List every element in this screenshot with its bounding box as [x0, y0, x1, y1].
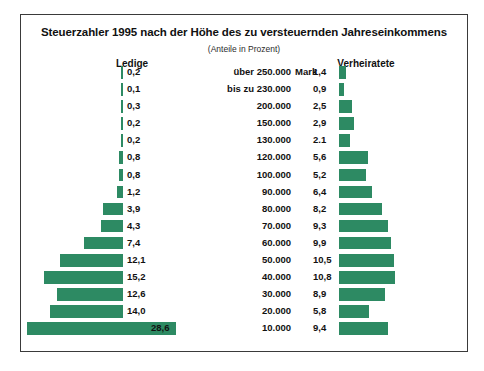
ledige-bar [121, 83, 123, 96]
ledige-value-label: 0,2 [127, 65, 140, 79]
verheiratete-bar-zone: 5,8 [339, 303, 467, 320]
chart-row: 12,630.0008,9 [21, 286, 467, 303]
verheiratete-bar [339, 134, 350, 147]
chart-row: 28,610.0009,4 [21, 320, 467, 337]
income-bracket-label: 100.000 [171, 168, 291, 182]
chart-row: 3,980.0008,2 [21, 201, 467, 218]
chart-row: 0,2130.0002.1 [21, 132, 467, 149]
verheiratete-value-label: 2.1 [313, 133, 326, 147]
verheiratete-bar [339, 203, 382, 216]
ledige-bar-zone: 4,3 [21, 218, 123, 235]
ledige-bar-zone: 28,6 [21, 320, 123, 337]
ledige-bar [57, 288, 123, 301]
ledige-bar [121, 134, 123, 147]
ledige-bar [103, 203, 123, 216]
verheiratete-bar [339, 322, 388, 335]
ledige-value-label: 3,9 [127, 202, 140, 216]
verheiratete-bar-zone: 2,5 [339, 98, 467, 115]
verheiratete-value-label: 1,4 [313, 65, 326, 79]
verheiratete-bar [339, 237, 391, 250]
ledige-value-label: 0,8 [127, 168, 140, 182]
income-bracket-label: 40.000 [171, 270, 291, 284]
ledige-value-label: 0,1 [127, 82, 140, 96]
ledige-bar-zone: 0,2 [21, 132, 123, 149]
ledige-bar [44, 271, 123, 284]
ledige-bar [101, 220, 123, 233]
chart-row: 0,8120.0005,6 [21, 149, 467, 166]
verheiratete-bar-zone: 0,9 [339, 81, 467, 98]
verheiratete-bar-zone: 8,2 [339, 201, 467, 218]
chart-row: 0,3200.0002,5 [21, 98, 467, 115]
chart-subtitle: (Anteile in Prozent) [21, 44, 467, 54]
ledige-bar-zone: 0,8 [21, 167, 123, 184]
verheiratete-value-label: 2,9 [313, 116, 326, 130]
verheiratete-bar-zone: 2.1 [339, 132, 467, 149]
income-bracket-label: 80.000 [171, 202, 291, 216]
ledige-bar [60, 254, 123, 267]
ledige-value-label: 0,8 [127, 150, 140, 164]
verheiratete-value-label: 9,3 [313, 219, 326, 233]
chart-row: 0,1bis zu 230.0000,9 [21, 81, 467, 98]
chart-row: 4,370.0009,3 [21, 218, 467, 235]
verheiratete-bar-zone: 1,4 [339, 64, 467, 81]
ledige-bar-zone: 0,3 [21, 98, 123, 115]
income-bracket-label: 90.000 [171, 185, 291, 199]
chart-row: 7,460.0009,9 [21, 235, 467, 252]
verheiratete-bar [339, 305, 369, 318]
income-bracket-label: 150.000 [171, 116, 291, 130]
chart-rows: 0,2über 250.000Mark1,40,1bis zu 230.0000… [21, 64, 467, 338]
chart-row: 1,290.0006,4 [21, 184, 467, 201]
ledige-value-label: 28,6 [151, 321, 170, 335]
ledige-bar [50, 305, 123, 318]
ledige-bar-zone: 12,6 [21, 286, 123, 303]
verheiratete-bar [339, 83, 344, 96]
ledige-bar-zone: 0,1 [21, 81, 123, 98]
chart-row: 12,150.00010,5 [21, 252, 467, 269]
income-bracket-label: 50.000 [171, 253, 291, 267]
verheiratete-bar [339, 117, 354, 130]
verheiratete-value-label: 10,8 [313, 270, 332, 284]
verheiratete-value-label: 9,4 [313, 321, 326, 335]
ledige-bar-zone: 14,0 [21, 303, 123, 320]
verheiratete-bar [339, 271, 395, 284]
verheiratete-bar-zone: 5,6 [339, 149, 467, 166]
verheiratete-bar [339, 288, 385, 301]
verheiratete-bar [339, 151, 368, 164]
ledige-bar-zone: 1,2 [21, 184, 123, 201]
verheiratete-value-label: 2,5 [313, 99, 326, 113]
ledige-value-label: 0,3 [127, 99, 140, 113]
verheiratete-bar [339, 66, 346, 79]
verheiratete-bar-zone: 6,4 [339, 184, 467, 201]
ledige-bar [119, 169, 123, 182]
verheiratete-bar [339, 100, 352, 113]
chart-row: 14,020.0005,8 [21, 303, 467, 320]
verheiratete-value-label: 5,6 [313, 150, 326, 164]
verheiratete-bar-zone: 9,4 [339, 320, 467, 337]
income-bracket-label: 120.000 [171, 150, 291, 164]
verheiratete-bar-zone: 5,2 [339, 167, 467, 184]
ledige-bar-zone: 3,9 [21, 201, 123, 218]
ledige-bar-zone: 0,2 [21, 115, 123, 132]
verheiratete-value-label: 5,2 [313, 168, 326, 182]
verheiratete-bar-zone: 10,5 [339, 252, 467, 269]
income-bracket-label: bis zu 230.000 [171, 82, 291, 96]
chart-row: 0,2150.0002,9 [21, 115, 467, 132]
ledige-bar [119, 151, 123, 164]
income-bracket-label: 20.000 [171, 304, 291, 318]
income-bracket-label: 60.000 [171, 236, 291, 250]
ledige-value-label: 12,6 [127, 287, 146, 301]
chart-row: 15,240.00010,8 [21, 269, 467, 286]
ledige-bar [121, 66, 123, 79]
ledige-value-label: 4,3 [127, 219, 140, 233]
ledige-bar-zone: 0,8 [21, 149, 123, 166]
verheiratete-bar-zone: 2,9 [339, 115, 467, 132]
income-bracket-label: 10.000 [171, 321, 291, 335]
ledige-value-label: 1,2 [127, 185, 140, 199]
chart-frame: Steuerzahler 1995 nach der Höhe des zu v… [20, 14, 468, 352]
ledige-value-label: 0,2 [127, 133, 140, 147]
verheiratete-bar [339, 186, 372, 199]
verheiratete-value-label: 0,9 [313, 82, 326, 96]
ledige-bar-zone: 15,2 [21, 269, 123, 286]
verheiratete-bar [339, 254, 394, 267]
income-bracket-label: 200.000 [171, 99, 291, 113]
